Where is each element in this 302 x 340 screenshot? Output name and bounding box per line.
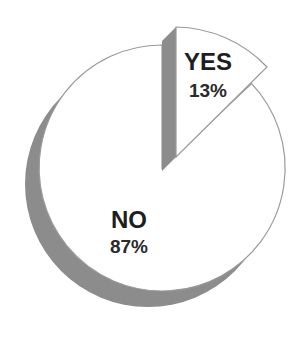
slice-yes-side [162,27,176,171]
label-no: NO [111,206,147,233]
label-yes-percent: 13% [189,80,227,101]
label-no-percent: 87% [110,236,148,257]
pie-chart: YES 13% NO 87% [0,0,302,340]
label-yes: YES [184,48,232,75]
